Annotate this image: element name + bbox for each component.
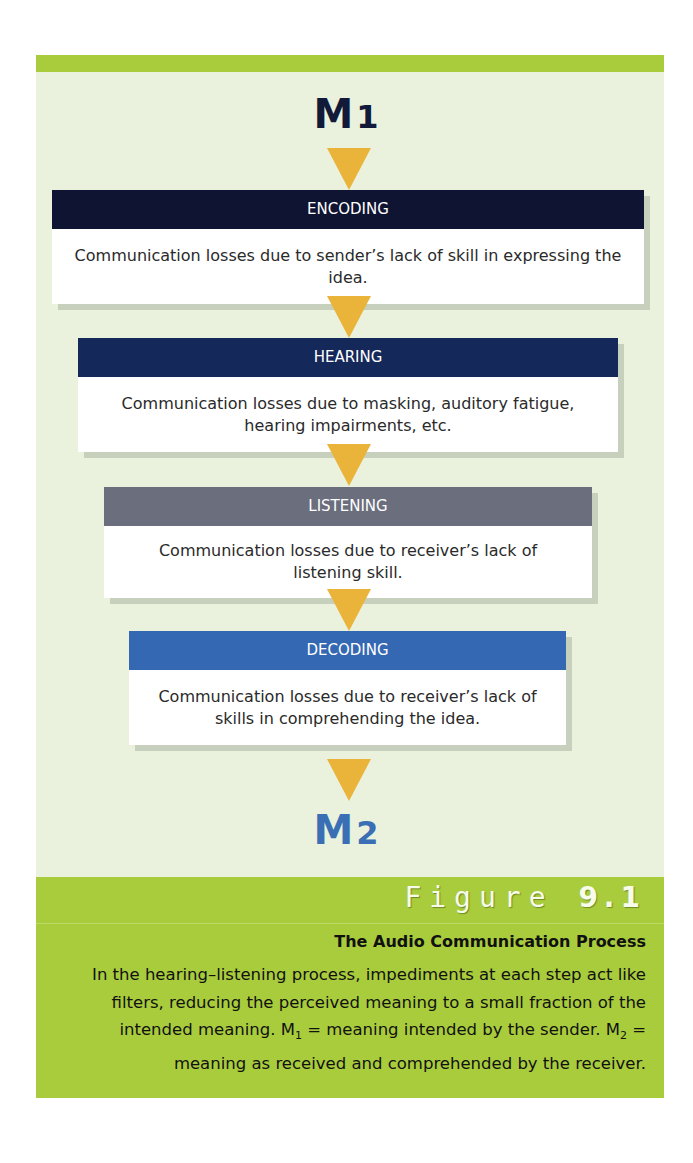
step-header: HEARING — [78, 338, 618, 377]
caption-text-part: = meaning intended by the sender. M — [302, 1020, 620, 1039]
figure-word: Figure — [404, 881, 553, 914]
subscript: 2 — [620, 1029, 627, 1042]
step-description: Communication losses due to receiver’s l… — [129, 670, 566, 745]
start-letter: M — [313, 91, 354, 137]
start-subscript: 1 — [356, 98, 379, 136]
end-subscript: 2 — [356, 814, 379, 852]
step-hearing: HEARING Communication losses due to mask… — [78, 338, 618, 452]
down-arrow-icon — [327, 589, 371, 631]
figure-label: Figure 9.1 — [404, 881, 646, 914]
down-arrow-icon — [327, 296, 371, 338]
caption-text: In the hearing–listening process, impedi… — [46, 961, 646, 1077]
end-letter: M — [313, 807, 354, 853]
step-encoding: ENCODING Communication losses due to sen… — [52, 190, 644, 304]
step-header: ENCODING — [52, 190, 644, 229]
down-arrow-icon — [327, 759, 371, 801]
caption-divider — [36, 923, 664, 924]
step-header: LISTENING — [104, 487, 592, 526]
step-header: DECODING — [129, 631, 566, 670]
top-accent-band — [36, 55, 664, 72]
subscript: 1 — [295, 1029, 302, 1042]
step-description: Communication losses due to masking, aud… — [78, 377, 618, 452]
figure-caption: Figure 9.1 The Audio Communication Proce… — [36, 877, 664, 1098]
down-arrow-icon — [327, 148, 371, 190]
start-meaning-label: M1 — [0, 94, 693, 137]
step-listening: LISTENING Communication losses due to re… — [104, 487, 592, 598]
end-meaning-label: M2 — [0, 810, 693, 853]
step-description: Communication losses due to sender’s lac… — [52, 229, 644, 304]
down-arrow-icon — [327, 444, 371, 486]
step-decoding: DECODING Communication losses due to rec… — [129, 631, 566, 745]
caption-heading: The Audio Communication Process — [334, 932, 646, 951]
step-description: Communication losses due to receiver’s l… — [104, 526, 592, 598]
figure-number: 9.1 — [578, 881, 646, 914]
